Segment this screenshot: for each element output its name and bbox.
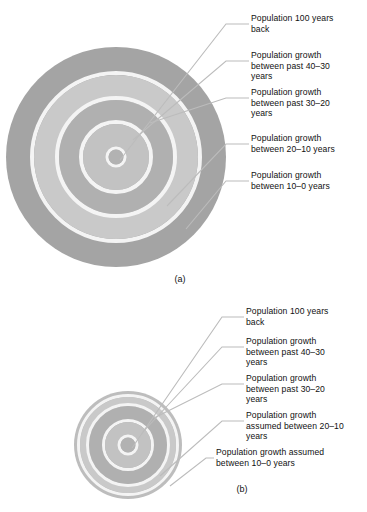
figure-a-caption: (a)	[160, 274, 200, 284]
label-population-100-years-back: Population 100 years back	[251, 13, 367, 34]
label-growth-30-20: Population growth between past 30–20 yea…	[251, 87, 367, 119]
label-growth-10-0: Population growth between 10–0 years	[251, 170, 367, 191]
label-growth-40-30: Population growth between past 40–30 yea…	[246, 336, 367, 368]
figure-b-labels: Population 100 years back Population gro…	[0, 290, 367, 512]
label-population-100-years-back: Population 100 years back	[246, 306, 367, 327]
label-growth-assumed-20-10: Population growth assumed between 20–10 …	[246, 410, 367, 442]
figure-b: Population 100 years back Population gro…	[0, 290, 367, 512]
figure-b-caption: (b)	[222, 484, 262, 494]
label-growth-assumed-10-0: Population growth assumed between 10–0 y…	[216, 447, 367, 468]
label-growth-40-30: Population growth between past 40–30 yea…	[251, 50, 367, 82]
label-growth-30-20: Population growth between past 30–20 yea…	[246, 373, 367, 405]
figure-a: Population 100 years back Population gro…	[0, 0, 367, 290]
label-growth-20-10: Population growth between 20–10 years	[251, 133, 367, 154]
figure-a-labels: Population 100 years back Population gro…	[0, 0, 367, 290]
